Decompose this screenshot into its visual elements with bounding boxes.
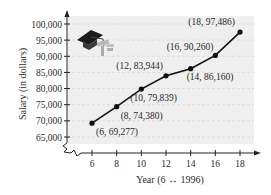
y-tick-label: 65,000 [36,133,62,143]
salary-line-chart: 65,00070,00075,00080,00085,00090,00095,0… [0,0,271,195]
axis-break-icon [63,143,81,156]
point-label: (10, 79,839) [130,93,177,104]
data-point [114,104,119,109]
data-point [139,86,144,91]
y-tick-label: 70,000 [36,116,62,126]
y-tick-label: 85,000 [36,68,62,78]
y-tick-label: 100,000 [31,20,62,30]
x-tick-label: 8 [114,159,119,169]
y-tick-label: 95,000 [36,36,62,46]
y-axis-label: Salary (in dollars) [17,48,29,120]
point-label: (6, 69,277) [96,127,138,138]
x-tick-label: 6 [90,159,95,169]
x-tick-label: 10 [137,159,147,169]
data-point [237,30,242,35]
point-label: (16, 90,260) [167,42,214,53]
x-axis-arrow-icon [254,151,261,156]
y-tick-label: 80,000 [36,84,62,94]
x-axis-label: Year (6 ↔ 1996) [136,174,204,186]
data-point [163,73,168,78]
x-tick-label: 16 [211,159,221,169]
y-axis-arrow-icon [65,10,70,17]
point-label: (14, 86,160) [187,72,234,83]
x-axis: 681012141618 [81,150,261,169]
x-tick-label: 14 [186,159,196,169]
y-tick-label: 90,000 [36,52,62,62]
y-tick-label: 75,000 [36,100,62,110]
x-tick-label: 12 [161,159,171,169]
data-point [89,121,94,126]
point-label: (8, 74,380) [121,111,163,122]
data-point [213,53,218,58]
x-tick-label: 18 [235,159,245,169]
data-point [188,66,193,71]
point-label: (18, 97,486) [188,17,235,28]
point-label: (12, 83,944) [116,61,163,72]
